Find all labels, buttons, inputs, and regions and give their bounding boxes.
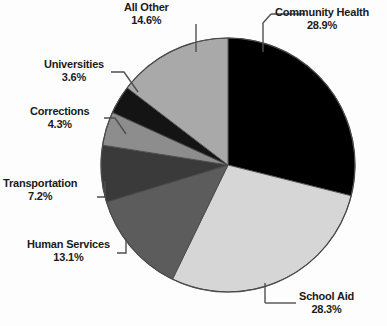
pie-label-corrections-name: Corrections <box>30 105 90 118</box>
pie-label-human-services: Human Services 13.1% <box>27 238 110 264</box>
pie-label-transportation: Transportation 7.2% <box>3 177 77 203</box>
pie-label-universities-name: Universities <box>44 58 104 71</box>
pie-chart-graphic <box>0 0 387 326</box>
pie-label-transportation-value: 7.2% <box>3 190 77 203</box>
pie-label-human-services-name: Human Services <box>27 238 110 251</box>
pie-label-school-aid-name: School Aid <box>299 290 354 303</box>
pie-label-all-other-value: 14.6% <box>124 14 169 27</box>
pie-chart-screenshot: Community Health 28.9% School Aid 28.3% … <box>0 0 387 326</box>
pie-label-community-health: Community Health 28.9% <box>275 6 369 32</box>
pie-label-human-services-value: 13.1% <box>27 251 110 264</box>
pie-label-corrections: Corrections 4.3% <box>30 105 90 131</box>
pie-label-community-health-name: Community Health <box>275 6 369 19</box>
pie-label-all-other: All Other 14.6% <box>124 1 169 27</box>
pie-label-community-health-value: 28.9% <box>275 19 369 32</box>
pie-label-universities: Universities 3.6% <box>44 58 104 84</box>
pie-label-school-aid: School Aid 28.3% <box>299 290 354 316</box>
leader-line-human-services <box>117 238 126 253</box>
pie-label-transportation-name: Transportation <box>3 177 77 190</box>
pie-label-all-other-name: All Other <box>124 1 169 14</box>
pie-label-universities-value: 3.6% <box>44 71 104 84</box>
pie-label-school-aid-value: 28.3% <box>299 303 354 316</box>
pie-slice-group <box>101 38 355 292</box>
pie-label-corrections-value: 4.3% <box>30 118 90 131</box>
